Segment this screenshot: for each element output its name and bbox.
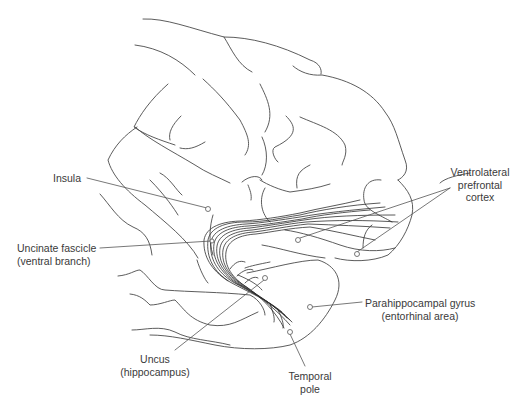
brain-outline-drawing	[0, 0, 519, 407]
label-insula: Insula	[53, 172, 81, 185]
brain-diagram: Insula Uncinate fascicle (ventral branch…	[0, 0, 519, 407]
vlpfc-marker-2	[355, 252, 360, 257]
insula-leader	[87, 178, 207, 208]
label-uncinate-fascicle: Uncinate fascicle (ventral branch)	[17, 242, 96, 267]
insula-marker	[206, 207, 211, 212]
label-uncus: Uncus (hippocampus)	[115, 353, 195, 378]
uncus-marker	[263, 276, 268, 281]
vlpfc-marker-1	[296, 238, 301, 243]
parahippocampal-leader	[312, 302, 362, 307]
label-vlpfc: Ventrolateral prefrontal cortex	[444, 166, 516, 204]
temporal-pole-marker	[288, 330, 293, 335]
parahippocampal-marker	[308, 305, 313, 310]
label-parahippocampal-gyrus: Parahippocampal gyrus (entorhinal area)	[365, 297, 475, 322]
vlpfc-leader-2	[357, 188, 450, 252]
vlpfc-leader-1	[300, 188, 450, 238]
label-temporal-pole: Temporal pole	[285, 370, 335, 395]
uncinate-leader	[100, 241, 211, 248]
uncinate-marker	[210, 239, 214, 243]
